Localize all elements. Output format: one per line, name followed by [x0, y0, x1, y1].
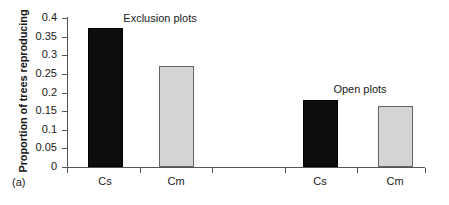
x-tick-label: Cm [146, 176, 206, 187]
y-tick-label: 0.05 [0, 142, 57, 153]
bar [88, 28, 123, 167]
y-tick-mark [62, 130, 67, 131]
y-tick-mark [62, 111, 67, 112]
x-tick-mark [140, 168, 141, 173]
x-tick-mark [357, 168, 358, 173]
x-tick-label: Cm [365, 176, 425, 187]
x-axis-line [67, 167, 425, 168]
y-tick-label: 0.35 [0, 31, 57, 42]
panel-tag: (a) [12, 177, 25, 188]
y-tick-label: 0 [0, 161, 57, 172]
x-tick-mark [285, 168, 286, 173]
x-tick-mark [212, 168, 213, 173]
y-axis-line [67, 17, 68, 168]
bar-chart-figure: Proportion of trees reproducing 00.050.1… [0, 0, 449, 205]
x-tick-label: Cs [290, 176, 350, 187]
y-tick-mark [62, 18, 67, 19]
bar [159, 66, 194, 167]
group-label: Exclusion plots [85, 13, 235, 24]
x-tick-mark [425, 168, 426, 173]
group-label: Open plots [285, 84, 435, 95]
y-tick-mark [62, 148, 67, 149]
y-tick-mark [62, 55, 67, 56]
y-tick-mark [62, 93, 67, 94]
y-tick-label: 0.15 [0, 105, 57, 116]
y-tick-label: 0.4 [0, 12, 57, 23]
y-tick-mark [62, 37, 67, 38]
y-tick-label: 0.2 [0, 87, 57, 98]
bar [378, 106, 413, 167]
y-tick-label: 0.1 [0, 124, 57, 135]
y-tick-label: 0.3 [0, 49, 57, 60]
x-tick-label: Cs [75, 176, 135, 187]
bar [303, 100, 338, 167]
x-tick-mark [67, 168, 68, 173]
y-tick-label: 0.25 [0, 68, 57, 79]
y-tick-mark [62, 74, 67, 75]
